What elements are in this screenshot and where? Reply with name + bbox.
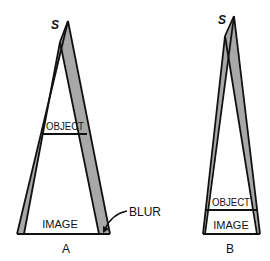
object-label-b: OBJECT bbox=[212, 197, 250, 208]
object-label-a: OBJECT bbox=[46, 121, 84, 132]
ray-inner-left-a bbox=[24, 42, 60, 234]
diagram-b: S OBJECT IMAGE B bbox=[203, 13, 260, 256]
source-label-a: S bbox=[51, 18, 59, 32]
diagram-a: S OBJECT IMAGE A BLUR bbox=[17, 18, 161, 256]
source-label-b: S bbox=[218, 13, 226, 27]
optics-figure: S OBJECT IMAGE A BLUR S OBJECT IMAGE B bbox=[0, 0, 270, 261]
image-label-b: IMAGE bbox=[213, 219, 248, 231]
caption-a: A bbox=[62, 242, 70, 256]
ray-inner-right-a bbox=[60, 42, 99, 234]
blur-label: BLUR bbox=[129, 205, 161, 219]
caption-b: B bbox=[226, 242, 234, 256]
image-label-a: IMAGE bbox=[42, 218, 77, 230]
